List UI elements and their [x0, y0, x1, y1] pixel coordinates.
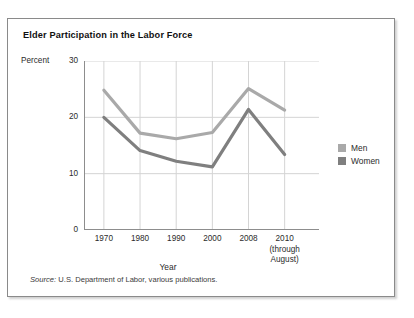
legend-item-label: Women: [351, 156, 380, 166]
legend-item-men[interactable]: Men: [338, 141, 380, 154]
x-tick-label-year: 2000: [203, 234, 221, 243]
line-chart-svg: [84, 61, 319, 230]
plot-area: [84, 61, 319, 230]
series-line-men: [104, 89, 285, 139]
x-axis-title: Year: [8, 262, 328, 272]
x-tick-label-year: 2008: [239, 234, 257, 243]
legend-item-label: Men: [351, 143, 367, 153]
x-tick-label: 2010(throughAugust): [257, 234, 313, 266]
legend-swatch-icon: [338, 144, 346, 152]
x-tick-label-sub: (through: [257, 245, 313, 256]
figure-frame: Elder Participation in the Labor Force P…: [7, 18, 395, 297]
legend-item-women[interactable]: Women: [338, 154, 380, 167]
y-tick-label: 10: [56, 169, 78, 178]
source-note: Source: U.S. Department of Labor, variou…: [30, 275, 217, 284]
source-label: Source:: [30, 275, 56, 284]
chart-legend: MenWomen: [338, 141, 380, 167]
legend-swatch-icon: [338, 157, 346, 165]
y-axis-title: Percent: [21, 56, 49, 65]
x-tick-label-year: 2010: [276, 234, 294, 243]
y-tick-label: 0: [56, 225, 78, 234]
series-line-women: [104, 109, 285, 166]
y-tick-label: 20: [56, 112, 78, 121]
y-tick-label: 30: [56, 56, 78, 65]
page-title: Elder Participation in the Labor Force: [23, 30, 193, 40]
source-text: U.S. Department of Labor, various public…: [58, 275, 217, 284]
x-tick-label-year: 1990: [167, 234, 185, 243]
x-tick-label-year: 1970: [95, 234, 113, 243]
x-tick-label-year: 1980: [131, 234, 149, 243]
